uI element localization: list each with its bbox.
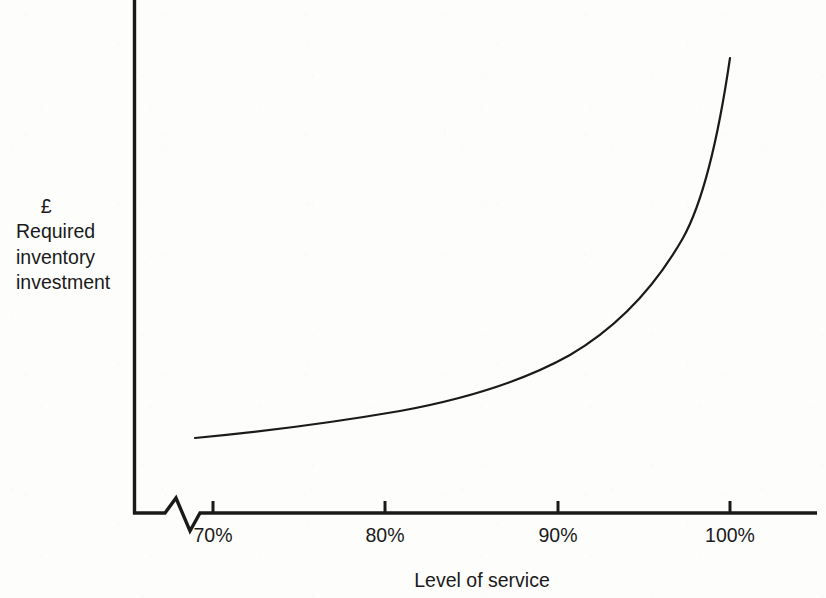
y-axis-label-line-2: inventory bbox=[16, 245, 110, 270]
chart-figure: £ Required inventory investment 70% 80% … bbox=[0, 0, 826, 598]
x-axis-ticks bbox=[213, 501, 730, 513]
y-axis-label-line-0: £ bbox=[16, 194, 110, 219]
x-axis-title: Level of service bbox=[414, 568, 549, 593]
investment-curve bbox=[195, 58, 730, 438]
y-axis-label: £ Required inventory investment bbox=[16, 194, 110, 295]
plot-area bbox=[0, 0, 826, 598]
y-axis-label-line-3: investment bbox=[16, 270, 110, 295]
x-tick-label-100: 100% bbox=[705, 524, 755, 547]
y-axis-label-line-1: Required bbox=[16, 219, 110, 244]
x-tick-label-70: 70% bbox=[193, 524, 232, 547]
x-tick-label-90: 90% bbox=[538, 524, 577, 547]
x-tick-label-80: 80% bbox=[365, 524, 404, 547]
